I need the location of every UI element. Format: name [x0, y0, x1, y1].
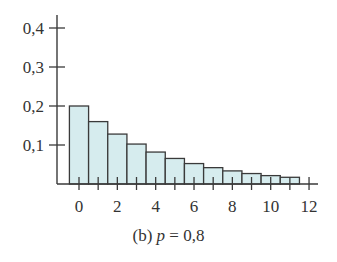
caption-prefix: (b) — [133, 226, 157, 245]
caption-variable: p — [157, 226, 166, 245]
y-tick-label: 0,2 — [23, 97, 44, 116]
y-tick-label: 0,1 — [23, 136, 44, 155]
x-tick-label: 8 — [228, 197, 237, 216]
x-tick-label: 0 — [75, 197, 84, 216]
x-tick-label: 6 — [190, 197, 199, 216]
bar-2 — [108, 134, 127, 184]
caption-suffix: = 0,8 — [165, 226, 204, 245]
x-tick-label: 4 — [151, 197, 160, 216]
tick-labels: 0246810120,10,20,30,4 — [23, 19, 318, 216]
bar-0 — [69, 106, 88, 184]
histogram-chart: 0246810120,10,20,30,4 — [0, 0, 337, 225]
y-tick-label: 0,3 — [23, 58, 44, 77]
x-tick-label: 12 — [301, 197, 318, 216]
x-tick-label: 10 — [262, 197, 279, 216]
bar-1 — [89, 122, 108, 184]
y-tick-label: 0,4 — [23, 19, 45, 38]
x-tick-label: 2 — [113, 197, 122, 216]
bars — [69, 106, 299, 184]
chart-caption: (b) p = 0,8 — [0, 226, 337, 246]
